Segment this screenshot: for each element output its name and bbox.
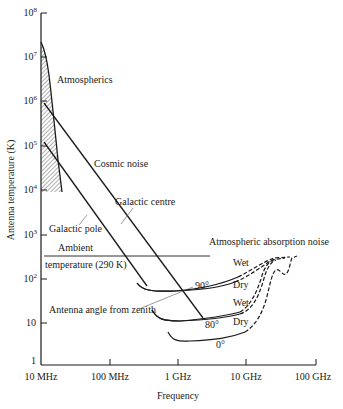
galactic-centre-line (44, 103, 203, 318)
svg-text:108: 108 (24, 6, 38, 18)
svg-text:103: 103 (24, 228, 38, 240)
y-tick-labels: 108 107 106 105 104 103 102 10 1 (24, 6, 38, 366)
label-angle-80: 80° (205, 319, 219, 330)
y-axis-title: Antenna temperature (K) (5, 140, 17, 241)
svg-text:100 MHz: 100 MHz (91, 371, 130, 382)
label-galactic-centre: Galactic centre (115, 196, 176, 207)
label-angle-90: 90° (195, 280, 209, 291)
svg-text:100 GHz: 100 GHz (295, 371, 332, 382)
svg-text:10: 10 (26, 317, 36, 328)
label-cosmic-noise: Cosmic noise (94, 158, 149, 169)
svg-text:1 GHz: 1 GHz (165, 371, 192, 382)
svg-text:105: 105 (24, 139, 38, 151)
label-atmospherics: Atmospherics (57, 74, 113, 85)
noise-temperature-chart: 108 107 106 105 104 103 102 10 1 10 MHz … (0, 0, 343, 409)
absorption-90 (137, 257, 290, 291)
label-dry-80: Dry (233, 316, 249, 327)
x-axis-title: Frequency (157, 390, 199, 401)
absorption-80 (152, 259, 276, 321)
label-galactic-pole: Galactic pole (49, 223, 103, 234)
svg-text:10 MHz: 10 MHz (24, 371, 58, 382)
label-wet-80: Wet (233, 297, 249, 308)
label-dry-90: Dry (233, 279, 249, 290)
svg-text:106: 106 (24, 94, 38, 106)
label-atmospheric-absorption: Atmospheric absorption noise (209, 236, 330, 247)
x-tick-labels: 10 MHz 100 MHz 1 GHz 10 GHz 100 GHz (24, 371, 331, 382)
label-wet-90: Wet (233, 257, 249, 268)
svg-text:102: 102 (24, 272, 38, 284)
label-angle-0: 0° (216, 339, 225, 350)
label-antenna-angle: Antenna angle from zenith (49, 304, 156, 315)
svg-text:104: 104 (24, 183, 38, 195)
svg-text:1: 1 (31, 355, 36, 366)
label-ambient: Ambient (58, 242, 93, 253)
svg-text:107: 107 (24, 50, 38, 62)
label-ambient-temp: temperature (290 K) (45, 259, 127, 271)
svg-text:10 GHz: 10 GHz (230, 371, 262, 382)
